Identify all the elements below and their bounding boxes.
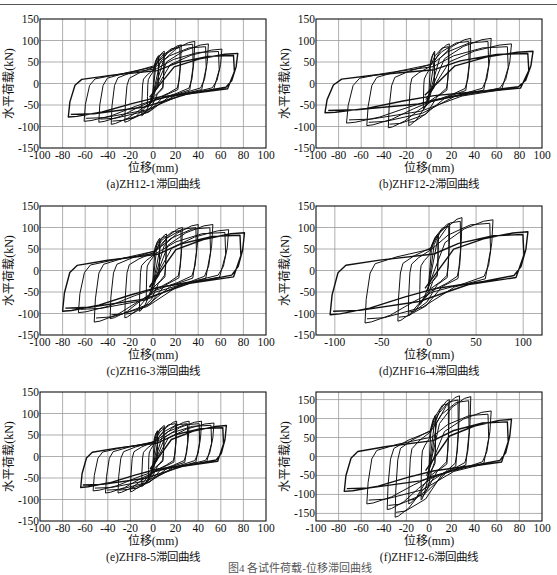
- y-tick-label: 150: [22, 200, 40, 212]
- x-tick-label: 20: [170, 149, 182, 161]
- subplot-caption: (a)ZH12-1滞回曲线: [106, 177, 200, 191]
- y-tick-label: 0: [33, 78, 39, 90]
- x-tick-label: -40: [376, 149, 392, 161]
- subplot-caption: (f)ZHF12-6滞回曲线: [380, 550, 479, 564]
- y-tick-label: -100: [18, 494, 39, 506]
- x-axis-label: 位移(mm): [128, 160, 179, 175]
- x-tick-label: -40: [100, 522, 116, 534]
- y-tick-label: 100: [22, 408, 40, 420]
- y-tick-label: 100: [298, 35, 316, 47]
- y-axis-label: 水平荷载(kN): [2, 421, 16, 492]
- x-tick-label: -80: [331, 522, 347, 534]
- x-tick-label: 40: [192, 522, 204, 534]
- y-tick-label: -150: [294, 142, 315, 154]
- x-tick-label: -80: [55, 522, 71, 534]
- y-tick-label: 0: [33, 265, 39, 277]
- y-tick-label: 150: [22, 13, 40, 25]
- x-tick-label: 60: [491, 149, 503, 161]
- x-tick-label: 40: [468, 149, 480, 161]
- x-tick-label: -80: [55, 149, 71, 161]
- y-tick-label: 50: [304, 432, 316, 444]
- x-tick-label: 0: [426, 336, 432, 348]
- y-tick-label: 150: [298, 13, 316, 25]
- x-tick-label: 60: [215, 149, 227, 161]
- x-tick-label: -100: [305, 522, 326, 534]
- x-tick-label: 60: [491, 522, 503, 534]
- x-tick-label: -100: [324, 336, 345, 348]
- chart-panel-c: -100-80-60-40-20020406080100-150-100-500…: [0, 197, 280, 379]
- y-tick-label: 150: [298, 200, 316, 212]
- y-tick-label: -150: [18, 329, 39, 341]
- x-tick-label: 20: [170, 522, 182, 534]
- y-tick-label: -100: [294, 121, 315, 133]
- y-tick-label: 100: [298, 413, 316, 425]
- y-tick-label: 50: [304, 243, 316, 255]
- x-axis-label: 位移(mm): [128, 347, 179, 362]
- x-tick-label: 80: [238, 149, 250, 161]
- figure-caption: 图4 各试件荷载-位移滞回曲线: [228, 559, 372, 575]
- x-tick-label: 60: [215, 522, 227, 534]
- y-tick-label: 0: [309, 265, 315, 277]
- y-tick-label: 50: [28, 243, 40, 255]
- y-axis-label: 水平荷载(kN): [2, 235, 16, 306]
- subplot-caption: (d)ZHF16-4滞回曲线: [379, 364, 480, 378]
- x-tick-label: -20: [123, 336, 139, 348]
- x-tick-label: 100: [533, 149, 551, 161]
- y-tick-label: -150: [18, 515, 39, 527]
- y-tick-label: -50: [300, 99, 316, 111]
- y-tick-label: 0: [33, 451, 39, 463]
- x-tick-label: 80: [238, 336, 250, 348]
- x-axis-label: 位移(mm): [404, 160, 455, 175]
- hysteresis-loops: [81, 421, 227, 493]
- y-tick-label: 0: [309, 451, 315, 463]
- y-tick-label: 150: [22, 386, 40, 398]
- subplot-caption: (b)ZHF12-2滞回曲线: [379, 177, 480, 191]
- subplot-caption: (e)ZHF8-5滞回曲线: [106, 550, 201, 564]
- y-tick-label: -50: [24, 286, 40, 298]
- y-tick-label: -150: [294, 329, 315, 341]
- top-rule: [0, 4, 557, 5]
- hysteresis-loops: [63, 225, 245, 323]
- x-tick-label: 100: [533, 522, 551, 534]
- y-tick-label: 100: [22, 35, 40, 47]
- x-axis-label: 位移(mm): [404, 533, 455, 548]
- x-tick-label: -20: [399, 522, 415, 534]
- chart-panel-a: -100-80-60-40-20020406080100-150-100-500…: [0, 10, 280, 192]
- x-axis-label: 位移(mm): [128, 533, 179, 548]
- y-tick-label: 150: [298, 394, 316, 406]
- y-tick-label: 100: [298, 222, 316, 234]
- subplot-caption: (c)ZH16-3滞回曲线: [106, 364, 200, 378]
- chart-panel-b: -100-80-60-40-20020406080100-150-100-500…: [276, 10, 557, 192]
- x-tick-label: -60: [354, 149, 370, 161]
- x-tick-label: 60: [215, 336, 227, 348]
- x-tick-label: -60: [354, 522, 370, 534]
- x-tick-label: 50: [470, 336, 482, 348]
- x-tick-label: -40: [100, 149, 116, 161]
- x-tick-label: 40: [468, 522, 480, 534]
- x-tick-label: 0: [150, 149, 156, 161]
- y-axis-label: 水平荷载(kN): [2, 48, 16, 119]
- x-tick-label: -60: [78, 336, 94, 348]
- x-tick-label: -20: [399, 149, 415, 161]
- y-tick-label: -50: [24, 472, 40, 484]
- x-tick-label: 100: [515, 336, 533, 348]
- x-tick-label: 20: [170, 336, 182, 348]
- y-tick-label: -50: [24, 99, 40, 111]
- x-tick-label: -40: [376, 522, 392, 534]
- y-tick-label: -50: [300, 469, 316, 481]
- y-tick-label: 50: [28, 56, 40, 68]
- x-tick-label: 100: [257, 149, 275, 161]
- chart-panel-f: -100-80-60-40-20020406080100-150-100-500…: [276, 383, 557, 565]
- x-tick-label: 0: [150, 522, 156, 534]
- x-tick-label: 20: [446, 149, 458, 161]
- x-tick-label: -60: [78, 522, 94, 534]
- y-tick-label: 0: [309, 78, 315, 90]
- y-tick-label: -100: [294, 308, 315, 320]
- x-tick-label: -20: [123, 522, 139, 534]
- x-tick-label: 80: [514, 149, 526, 161]
- x-tick-label: -40: [100, 336, 116, 348]
- x-tick-label: 20: [446, 522, 458, 534]
- y-tick-label: -100: [18, 308, 39, 320]
- y-tick-label: -150: [294, 507, 315, 519]
- x-tick-label: -60: [78, 149, 94, 161]
